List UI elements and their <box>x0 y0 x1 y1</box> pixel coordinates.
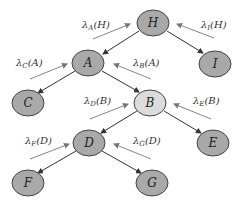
msg-label-c-a: λC(A) <box>15 57 43 70</box>
svg-text:F: F <box>23 176 33 190</box>
edge-d-g <box>102 151 141 173</box>
node-c: C <box>12 90 44 116</box>
svg-text:H: H <box>147 16 159 30</box>
node-e: E <box>197 130 229 156</box>
node-d: D <box>73 130 105 156</box>
bayesian-network-diagram: λA(H) λI(H) λC(A) λB(A) λD(B) λE(B) λF(D… <box>0 0 241 200</box>
node-b: B <box>134 90 166 116</box>
node-f: F <box>12 170 44 196</box>
svg-text:C: C <box>23 96 32 110</box>
msg-label-b-a: λB(A) <box>132 57 160 70</box>
msg-label-g-d: λG(D) <box>132 135 161 148</box>
msg-label-d-b: λD(B) <box>83 95 111 108</box>
edges <box>38 31 203 173</box>
edge-h-i <box>167 31 203 53</box>
svg-text:I: I <box>212 57 218 71</box>
svg-text:B: B <box>145 96 155 110</box>
node-a: A <box>72 50 104 76</box>
node-i: I <box>199 51 231 77</box>
edge-b-d <box>101 111 137 133</box>
svg-text:E: E <box>208 136 218 150</box>
edge-d-f <box>38 151 76 173</box>
message-arrows <box>30 24 214 159</box>
node-g: G <box>136 170 168 196</box>
svg-text:D: D <box>83 136 94 150</box>
edge-h-a <box>103 31 139 54</box>
edge-a-c <box>38 71 75 93</box>
msg-label-f-d: λF(D) <box>24 135 52 148</box>
edge-a-b <box>102 71 139 92</box>
message-labels: λA(H) λI(H) λC(A) λB(A) λD(B) λE(B) λF(D… <box>15 19 227 148</box>
msg-label-a-h: λA(H) <box>81 19 110 32</box>
svg-text:A: A <box>83 56 93 70</box>
msg-label-i-h: λI(H) <box>200 19 227 32</box>
msg-arrow-e-b <box>174 104 211 119</box>
msg-label-e-b: λE(B) <box>192 95 220 108</box>
msg-arrow-g-d <box>114 144 151 159</box>
edge-b-e <box>164 111 201 133</box>
node-h: H <box>137 10 169 36</box>
svg-text:G: G <box>147 176 157 190</box>
